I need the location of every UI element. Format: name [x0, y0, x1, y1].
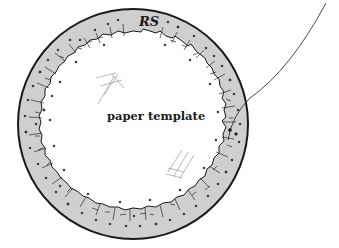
outer-ring — [18, 9, 248, 239]
center-label: paper template — [107, 109, 205, 123]
ring-label: RS — [139, 14, 159, 29]
diagram-canvas — [0, 0, 339, 248]
